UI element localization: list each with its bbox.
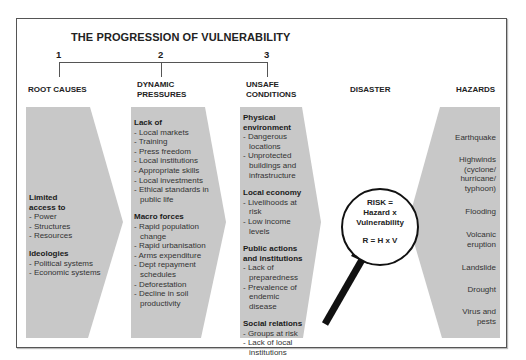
risk-formula: RISK = Hazard x Vulnerability R = H x V (342, 198, 418, 246)
list-item: - Press freedom (134, 147, 214, 157)
hazard-drought: Drought (468, 285, 496, 295)
list-item: - Rapid population change (134, 222, 214, 241)
list-item: - Structures (29, 222, 119, 232)
hazard-volcanic-eruption: Volcanic eruption (450, 230, 496, 249)
root-causes-text: Limited access to - Power - Structures -… (29, 193, 119, 278)
list-item: - Ethical standards in public life (134, 185, 214, 204)
list-item: - Local institutions (134, 156, 214, 166)
list-item: - Resources (29, 231, 119, 241)
hazard-earthquake: Earthquake (455, 133, 496, 143)
list-item: - Arms expenditure (134, 251, 214, 261)
hazard-highwinds: Highwinds (cyclone/ hurricane/ typhoon) (446, 155, 496, 193)
hazard-landslide: Landslide (462, 263, 496, 273)
hazard-flooding: Flooding (465, 207, 496, 217)
list-item: - Appropriate skills (134, 166, 214, 176)
list-item: - Prevalence of endemic disease (243, 283, 307, 312)
list-item: - Unprotected buildings and infrastructu… (243, 151, 307, 180)
list-item: - Local markets (134, 128, 214, 138)
list-item: - Deforestation (134, 280, 214, 290)
list-item: - Training (134, 137, 214, 147)
list-item: - Livelihoods at risk (243, 198, 307, 217)
list-item: - Local investments (134, 176, 214, 186)
dynamic-pressures-text: Lack of - Local markets - Training - Pre… (134, 118, 214, 308)
list-item: - Rapid urbanisation (134, 241, 214, 251)
list-item: - Power (29, 212, 119, 222)
list-item: - Low income levels (243, 217, 307, 236)
list-item: - Economic systems (29, 268, 119, 278)
list-item: - Decline in soil productivity (134, 289, 214, 308)
list-item: - Lack of local institutions (243, 338, 307, 357)
list-item: - Political systems (29, 259, 119, 269)
magnifier-handle-icon (325, 258, 363, 324)
unsafe-conditions-text: Physical environment - Dangerous locatio… (243, 113, 307, 358)
list-item: - Groups at risk (243, 329, 307, 339)
list-item: - Dept repayment schedules (134, 260, 214, 279)
list-item: - Lack of preparedness (243, 263, 307, 282)
list-item: - Dangerous locations (243, 132, 307, 151)
hazard-virus-and-pests: Virus and pests (450, 307, 496, 326)
